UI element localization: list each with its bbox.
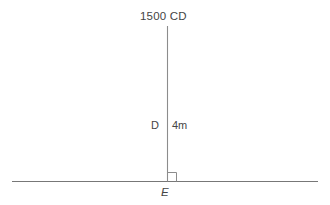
label-top-endpoint: 1500 CD <box>140 11 187 23</box>
geometry-figure <box>0 0 330 205</box>
label-length-measure: 4m <box>172 120 187 131</box>
diagram-canvas: 1500 CD D 4m E <box>0 0 330 205</box>
label-point-e: E <box>161 187 169 199</box>
right-angle-marker-icon <box>168 173 177 182</box>
label-point-d: D <box>151 120 159 131</box>
